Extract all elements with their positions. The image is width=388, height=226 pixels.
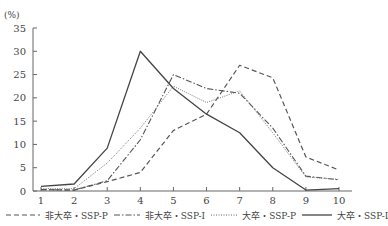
dotted-line-swatch-icon [211,212,237,218]
y-tick-label: 30 [13,46,26,57]
y-tick-label: 10 [13,139,26,150]
y-tick-label: 5 [20,162,26,173]
y-unit-label: (%) [4,10,20,20]
x-tick-label: 6 [203,195,209,206]
x-tick-label: 5 [170,195,176,206]
dashed-line-swatch-icon [6,212,40,218]
legend-item-nonuni-ssp-i: 非大卒・SSP-I [114,209,205,222]
y-tick-label: 0 [20,186,26,197]
series-line-solid [41,51,339,190]
legend-label: 大卒・SSP-I [337,209,388,222]
data-lines [41,51,339,190]
series-line-dashdot [41,75,339,190]
legend-item-nonuni-ssp-p: 非大卒・SSP-P [6,209,108,222]
x-tick-label: 1 [38,195,44,206]
legend-label: 非大卒・SSP-I [145,209,205,222]
x-tick-label: 8 [270,195,276,206]
legend-item-uni-ssp-i: 大卒・SSP-I [302,209,388,222]
axes: (%)0510152025303512345678910 [4,10,352,206]
legend-label: 非大卒・SSP-P [45,209,108,222]
x-tick-label: 4 [137,195,143,206]
y-tick-label: 20 [13,92,26,103]
y-tick-label: 15 [13,116,26,127]
x-tick-label: 7 [236,195,242,206]
x-tick-label: 10 [333,195,346,206]
legend-item-uni-ssp-p: 大卒・SSP-P [211,209,296,222]
x-tick-label: 9 [303,195,309,206]
y-tick-label: 25 [13,69,26,80]
solid-line-swatch-icon [302,212,332,218]
dashdot-line-swatch-icon [114,212,140,218]
legend-label: 大卒・SSP-P [242,209,296,222]
y-tick-label: 35 [13,23,26,34]
legend: 非大卒・SSP-P 非大卒・SSP-I 大卒・SSP-P 大卒・SSP-I [0,207,364,223]
x-tick-label: 3 [104,195,110,206]
x-tick-label: 2 [71,195,77,206]
line-chart: (%)0510152025303512345678910 [0,0,364,206]
